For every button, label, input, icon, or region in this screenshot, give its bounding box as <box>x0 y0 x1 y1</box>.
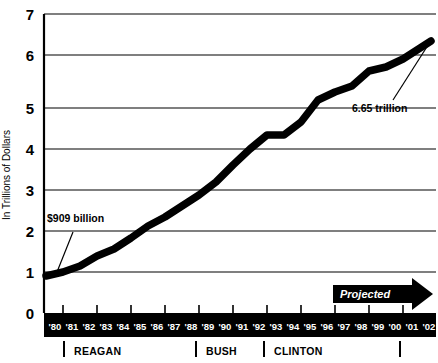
y-tick-label: 3 <box>26 182 34 199</box>
y-axis-title: In Trillions of Dollars <box>1 130 12 220</box>
presidency-label-clinton: CLINTON <box>274 345 323 357</box>
x-tick-label: '01 <box>406 321 420 332</box>
x-tick-label: '97 <box>338 321 351 332</box>
x-tick-label: '82 <box>83 321 96 332</box>
x-tick-label: '94 <box>287 321 301 332</box>
x-tick-label: '86 <box>151 321 164 332</box>
x-tick-label: '98 <box>355 321 368 332</box>
x-tick-label: '87 <box>168 321 181 332</box>
x-tick-label: '92 <box>253 321 266 332</box>
x-tick-label: '83 <box>100 321 113 332</box>
x-tick-label: '90 <box>219 321 232 332</box>
x-tick-label: '99 <box>372 321 385 332</box>
y-tick-label: 5 <box>26 100 34 117</box>
x-tick-label: '02 <box>423 321 436 332</box>
y-tick-label: 4 <box>26 141 35 158</box>
x-tick-label: '93 <box>270 321 283 332</box>
chart-container: In Trillions of Dollars 0 1 2 3 4 5 6 7 <box>0 0 438 363</box>
y-tick-label: 6 <box>26 47 34 64</box>
x-tick-label: '91 <box>236 321 250 332</box>
presidency-label-bush: BUSH <box>206 345 237 357</box>
x-tick-label: '85 <box>134 321 148 332</box>
x-tick-label: '88 <box>185 321 198 332</box>
annotation-start-label: $909 billion <box>47 212 104 224</box>
x-tick-label: '95 <box>304 321 318 332</box>
y-tick-label: 0 <box>26 305 34 322</box>
x-tick-label: '89 <box>202 321 215 332</box>
y-tick-label: 7 <box>26 6 34 23</box>
projected-label: Projected <box>340 288 390 300</box>
x-axis-year-labels: '80 '81 '82 '83 '84 '85 '86 '87 '88 '89 … <box>49 321 436 332</box>
x-tick-label: '80 <box>49 321 62 332</box>
y-tick-label: 2 <box>26 223 34 240</box>
presidency-label-reagan: REAGAN <box>74 345 121 357</box>
x-tick-label: '96 <box>321 321 334 332</box>
y-tick-label: 1 <box>26 264 34 281</box>
x-tick-label: '00 <box>389 321 402 332</box>
annotation-end-label: 6.65 trillion <box>352 102 407 114</box>
x-tick-label: '81 <box>66 321 80 332</box>
x-tick-label: '84 <box>117 321 131 332</box>
